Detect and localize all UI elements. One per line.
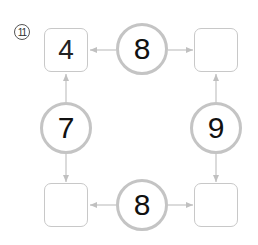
circle-right: 9 [190, 102, 242, 154]
circle-top: 8 [116, 23, 168, 75]
circle-bottom: 8 [116, 179, 168, 231]
box-top-right[interactable] [194, 28, 238, 72]
circle-left: 7 [40, 102, 92, 154]
box-bottom-right[interactable] [194, 183, 238, 227]
box-bottom-left[interactable] [44, 183, 88, 227]
box-top-left[interactable]: 4 [44, 28, 88, 72]
